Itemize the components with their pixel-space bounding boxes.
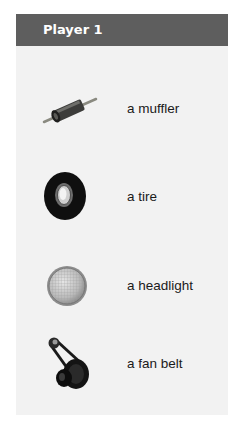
tire-icon <box>40 167 100 227</box>
headlight-icon <box>40 256 100 316</box>
item-label: a muffler <box>127 79 179 139</box>
fan-belt-icon <box>40 334 100 394</box>
item-label: a headlight <box>127 256 193 316</box>
player-header: Player 1 <box>16 14 228 46</box>
list-item-muffler[interactable]: a muffler <box>16 79 228 139</box>
list-item-headlight[interactable]: a headlight <box>16 256 228 316</box>
list-item-tire[interactable]: a tire <box>16 167 228 227</box>
item-label: a tire <box>127 167 157 227</box>
list-item-fan-belt[interactable]: a fan belt <box>16 334 228 394</box>
muffler-icon <box>40 79 100 139</box>
player-card: Player 1 a muffler a tire <box>16 14 228 415</box>
item-label: a fan belt <box>127 334 183 394</box>
